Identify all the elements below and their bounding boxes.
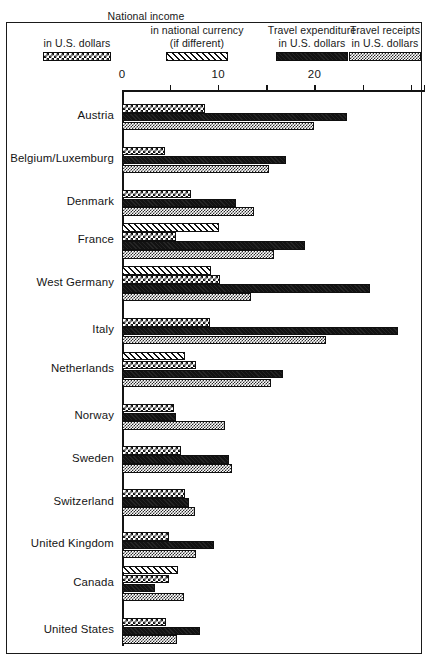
category-label-sweden: Sweden	[72, 452, 114, 464]
bar-travel-receipts	[122, 293, 251, 302]
bar-national-income-usd	[122, 361, 196, 370]
bar-national-income-usd	[122, 532, 169, 541]
bar-travel-receipts	[122, 464, 232, 473]
category-label-united-states: United States	[44, 623, 114, 635]
bar-travel-receipts	[122, 593, 184, 602]
bar-travel-receipts	[122, 250, 274, 259]
bar-national-income-usd	[122, 232, 176, 241]
bar-national-income-usd	[122, 318, 210, 327]
bar-travel-receipts	[122, 635, 177, 644]
bar-travel-expenditure	[122, 113, 347, 122]
bar-travel-receipts	[122, 336, 326, 345]
bar-national-income-usd	[122, 618, 166, 627]
bar-travel-receipts	[122, 165, 269, 174]
category-label-netherlands: Netherlands	[51, 362, 114, 374]
category-label-norway: Norway	[74, 409, 114, 421]
bar-national-income-usd	[122, 104, 205, 113]
bar-travel-expenditure	[122, 584, 155, 593]
chart-plot-area: AustriaBelgium/LuxemburgDenmarkFranceWes…	[0, 0, 430, 670]
bar-travel-receipts	[122, 421, 225, 430]
bar-travel-receipts	[122, 122, 314, 131]
category-label-denmark: Denmark	[67, 195, 114, 207]
bar-national-currency	[122, 566, 178, 575]
bar-national-income-usd	[122, 575, 169, 584]
bar-national-currency	[122, 266, 211, 275]
bar-national-income-usd	[122, 404, 174, 413]
bar-travel-receipts	[122, 550, 196, 559]
bar-national-currency	[122, 223, 219, 232]
bar-national-income-usd	[122, 446, 181, 455]
category-label-west-germany: West Germany	[36, 276, 114, 288]
bar-travel-expenditure	[122, 627, 200, 636]
category-label-canada: Canada	[73, 576, 114, 588]
bar-travel-receipts	[122, 507, 195, 516]
bar-travel-expenditure	[122, 156, 286, 165]
bar-travel-expenditure	[122, 241, 305, 250]
bar-travel-expenditure	[122, 327, 398, 336]
bar-travel-expenditure	[122, 284, 370, 293]
bar-national-income-usd	[122, 489, 185, 498]
category-label-united-kingdom: United Kingdom	[31, 537, 114, 549]
bar-travel-expenditure	[122, 541, 214, 550]
category-label-belgium-luxemburg: Belgium/Luxemburg	[10, 152, 114, 164]
category-label-switzerland: Switzerland	[53, 495, 114, 507]
bar-travel-receipts	[122, 207, 254, 216]
bar-national-income-usd	[122, 275, 220, 284]
bar-travel-expenditure	[122, 413, 176, 422]
bar-travel-expenditure	[122, 498, 189, 507]
bar-travel-expenditure	[122, 455, 229, 464]
bar-national-currency	[122, 352, 185, 361]
bar-travel-receipts	[122, 379, 271, 388]
category-label-france: France	[78, 233, 114, 245]
category-label-italy: Italy	[92, 323, 114, 335]
bar-national-income-usd	[122, 190, 191, 199]
bar-travel-expenditure	[122, 370, 283, 379]
category-label-austria: Austria	[77, 109, 114, 121]
bar-national-income-usd	[122, 147, 165, 156]
bar-travel-expenditure	[122, 199, 236, 208]
